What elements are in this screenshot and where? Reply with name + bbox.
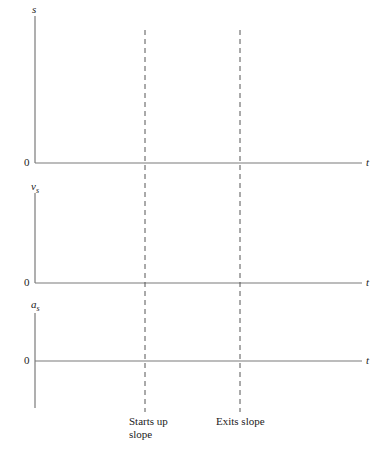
s-axis-label: s <box>32 4 36 15</box>
a-axis-label: as <box>31 299 40 310</box>
a-axis-label-text: a <box>31 298 37 310</box>
s-zero-label: 0 <box>24 157 30 168</box>
v-axis-label: vs <box>31 181 39 192</box>
s-axis-label-text: s <box>32 3 36 15</box>
starts-up-slope-caption-line1: Starts up <box>129 415 168 428</box>
v-time-label: t <box>366 277 369 288</box>
diagram-canvas <box>0 0 389 456</box>
a-zero-label: 0 <box>24 355 30 366</box>
exits-slope-caption-line1: Exits slope <box>216 415 265 428</box>
exits-slope-caption: Exits slope <box>216 415 265 428</box>
a-axis-label-sub: s <box>37 304 40 313</box>
starts-up-slope-caption-line2: slope <box>129 428 168 441</box>
s-time-label: t <box>366 157 369 168</box>
v-axis-label-sub: s <box>36 186 39 195</box>
a-time-label: t <box>366 355 369 366</box>
v-zero-label: 0 <box>24 277 30 288</box>
starts-up-slope-caption: Starts up slope <box>129 415 168 441</box>
